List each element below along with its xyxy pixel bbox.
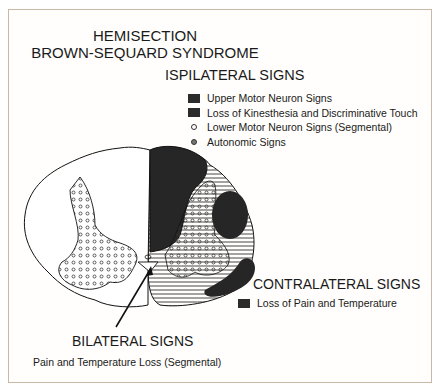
legend-item-pain-temperature: Loss of Pain and Temperature	[238, 297, 397, 309]
lateral-lesion	[212, 191, 248, 239]
bilateral-subtitle: Pain and Temperature Loss (Segmental)	[33, 356, 221, 368]
spinal-cord-cross-section	[0, 0, 443, 392]
bilateral-heading: BILATERAL SIGNS	[72, 333, 193, 349]
contralateral-heading: CONTRALATERAL SIGNS	[253, 276, 420, 292]
dark-square-icon	[238, 299, 250, 308]
legend-label: Loss of Pain and Temperature	[257, 297, 397, 309]
